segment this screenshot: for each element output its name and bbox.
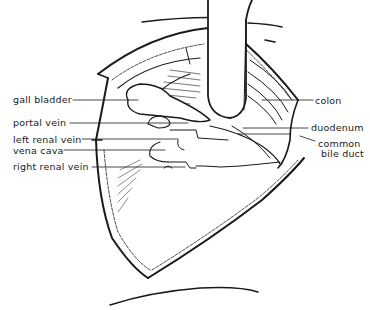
label-colon: colon	[315, 96, 342, 106]
label-left-renal-vein: left renal vein	[13, 135, 82, 145]
gall-bladder-shape	[127, 84, 211, 122]
label-common-bile-duct-line2: bile duct	[321, 149, 364, 159]
label-portal-vein: portal vein	[13, 118, 66, 128]
label-vena-cava: vena cava	[13, 146, 64, 156]
lower-skin-line	[110, 288, 258, 306]
label-right-renal-vein: right renal vein	[13, 162, 89, 172]
label-duodenum: duodenum	[311, 123, 364, 133]
label-gall-bladder: gall bladder	[13, 95, 72, 105]
leader-common-bile-duct	[300, 136, 315, 141]
incision-outline	[98, 28, 208, 74]
